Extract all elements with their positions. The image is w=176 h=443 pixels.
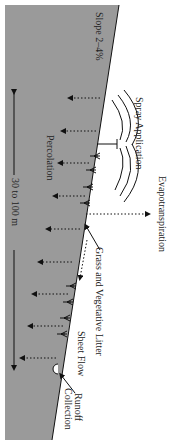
sheet-flow-label: Sheet Flow — [76, 331, 86, 376]
distance-label: 30 to 100 m — [10, 178, 20, 226]
diagram-svg — [0, 0, 176, 443]
evapotranspiration-label: Evapotranspiration — [157, 176, 167, 252]
spray-application-label: Spray Application — [134, 97, 144, 170]
overland-flow-diagram: Slope 2–4% Spray Application Percolation… — [0, 0, 176, 443]
runoff-label: Runoff — [73, 393, 83, 421]
collection-label: Collection — [63, 388, 73, 430]
grass-litter-label: Grass and Vegetative Litter — [94, 247, 104, 356]
percolation-label: Percolation — [45, 135, 55, 181]
slope-label: Slope 2–4% — [94, 12, 104, 61]
